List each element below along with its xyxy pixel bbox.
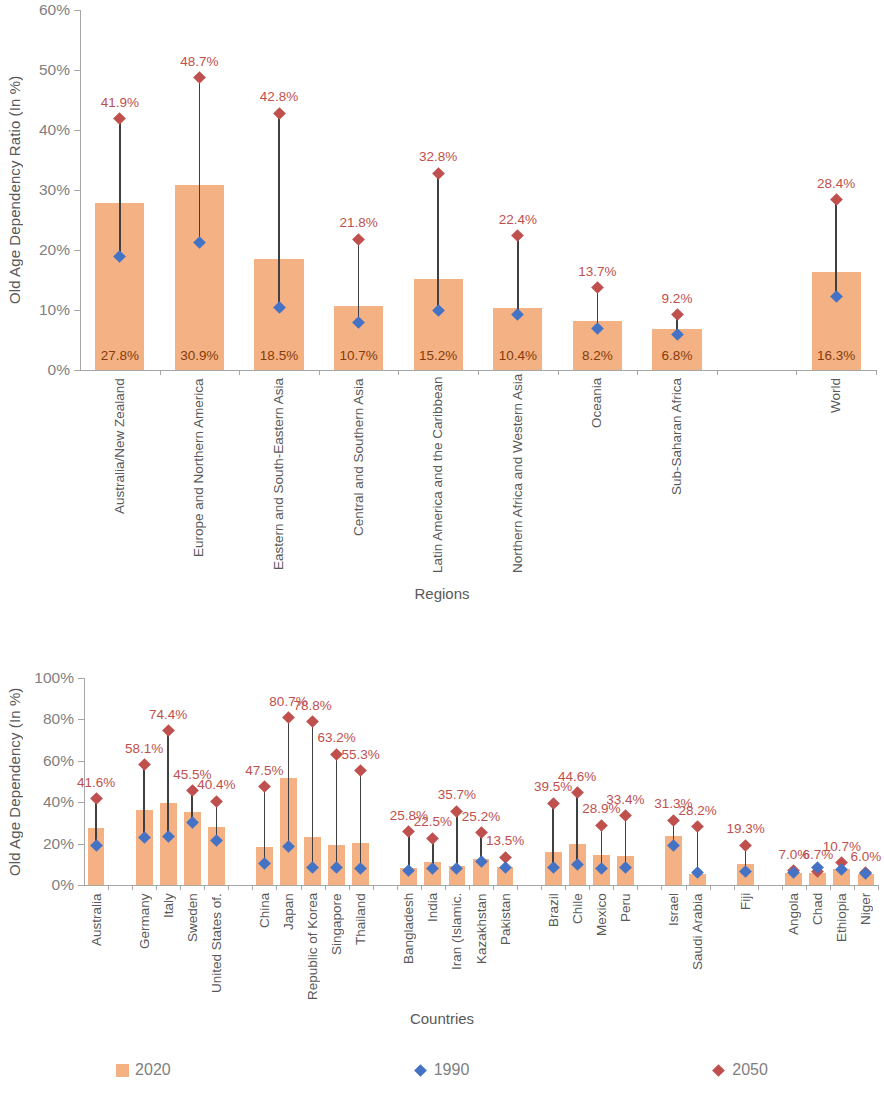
x-axis-category-label: Iran (Islamic. — [449, 893, 464, 1018]
x-axis-category-label: Sweden — [185, 893, 200, 1018]
x-axis-category-label: Saudi Arabia — [690, 893, 705, 1018]
y-axis-tick-label: 40% — [0, 793, 74, 811]
legend-label: 2050 — [732, 1061, 768, 1079]
x-axis-tick-mark — [878, 885, 879, 890]
bar-value-label: 6.8% — [662, 348, 693, 363]
x-axis-category-label: Thailand — [353, 893, 368, 1018]
x-axis-tick-mark — [589, 885, 590, 890]
x-axis-category-label: Australia — [89, 893, 104, 1018]
connector-line — [119, 119, 121, 256]
x-axis-category-label: Kazakhstan — [474, 893, 489, 1018]
x-axis-category-label: Europe and Northern America — [191, 378, 207, 573]
x-axis-tick-mark — [252, 885, 253, 890]
marker-2050-label: 22.4% — [499, 212, 537, 227]
legend-item-2050[interactable]: 2050 — [712, 1061, 768, 1079]
connector-line — [167, 731, 169, 836]
legend-item-1990[interactable]: 1990 — [414, 1061, 470, 1079]
x-axis-category-label: India — [425, 893, 440, 1018]
connector-line — [312, 722, 314, 868]
marker-2050-label: 48.7% — [180, 54, 218, 69]
connector-line — [288, 718, 290, 847]
x-axis-tick-mark — [421, 885, 422, 890]
marker-2050 — [306, 716, 319, 729]
marker-2050 — [547, 797, 560, 810]
x-axis-tick-mark — [493, 885, 494, 890]
y-axis-tick-label: 10% — [0, 301, 70, 319]
x-axis-category-label: United States of. — [209, 893, 224, 1018]
y-axis-tick-label: 60% — [0, 752, 74, 770]
marker-2050-label: 74.4% — [149, 707, 187, 722]
marker-2050 — [571, 786, 584, 799]
marker-2050 — [591, 281, 604, 294]
x-axis-tick-mark — [541, 885, 542, 890]
marker-2050-label: 6.0% — [851, 849, 882, 864]
legend-item-2020[interactable]: 2020 — [116, 1061, 171, 1079]
x-axis-tick-mark — [319, 370, 320, 375]
marker-2050 — [671, 308, 684, 321]
x-axis-tick-mark — [301, 885, 302, 890]
x-axis-tick-mark — [517, 885, 518, 890]
x-axis-tick-mark — [686, 885, 687, 890]
x-axis-tick-mark — [373, 885, 374, 890]
marker-2050 — [427, 832, 440, 845]
connector-line — [278, 113, 280, 307]
chart-regions: Old Age Dependency Ratio (In %)0%10%20%3… — [0, 0, 884, 610]
bar-value-label: 27.8% — [101, 348, 139, 363]
x-axis-category-label: Eastern and South-Eastern Asia — [271, 378, 287, 573]
marker-2050 — [273, 107, 286, 120]
marker-2050-label: 47.5% — [245, 763, 283, 778]
connector-line — [336, 754, 338, 867]
x-axis-category-label: Mexico — [594, 893, 609, 1018]
connector-line — [552, 803, 554, 867]
x-axis-tick-mark — [710, 885, 711, 890]
y-axis-tick-label: 40% — [0, 121, 70, 139]
marker-2050-label: 25.2% — [462, 809, 500, 824]
marker-2050-label: 28.2% — [678, 803, 716, 818]
bar-value-label: 10.4% — [499, 348, 537, 363]
x-axis-category-label: Fiji — [738, 893, 753, 1018]
x-axis-category-label: Oceania — [589, 378, 605, 573]
x-axis-category-label: Germany — [137, 893, 152, 1018]
x-axis-tick-mark — [276, 885, 277, 890]
chart-legend: 202019902050 — [0, 1055, 884, 1085]
x-axis-category-label: Peru — [618, 893, 633, 1018]
x-axis-tick-mark — [558, 370, 559, 375]
x-axis-tick-mark — [758, 885, 759, 890]
x-axis-line — [84, 885, 878, 886]
marker-2050-label: 32.8% — [419, 149, 457, 164]
bar-value-label: 8.2% — [582, 348, 613, 363]
x-axis-category-label: Bangladesh — [401, 893, 416, 1018]
bar-value-label: 18.5% — [260, 348, 298, 363]
marker-2050-label: 9.2% — [662, 291, 693, 306]
y-axis-tick-label: 80% — [0, 710, 74, 728]
legend-diamond-icon — [712, 1064, 725, 1077]
y-axis-line — [80, 10, 81, 370]
x-axis-category-label: Pakistan — [498, 893, 513, 1018]
x-axis-category-label: Chile — [570, 893, 585, 1018]
x-axis-category-label: Israel — [666, 893, 681, 1018]
marker-2050-label: 58.1% — [125, 741, 163, 756]
x-axis-category-label: Brazil — [546, 893, 561, 1018]
connector-line — [456, 811, 458, 868]
x-axis-tick-mark — [469, 885, 470, 890]
marker-2050 — [830, 193, 843, 206]
connector-line — [264, 787, 266, 864]
marker-2050 — [739, 839, 752, 852]
marker-2050 — [138, 758, 151, 771]
chart-countries: Old Age Dependency (In %)0%20%40%60%80%1… — [0, 640, 884, 1040]
legend-diamond-icon — [414, 1064, 427, 1077]
legend-label: 1990 — [434, 1061, 470, 1079]
y-axis-tick-label: 0% — [0, 361, 70, 379]
x-axis-title: Regions — [0, 585, 884, 602]
x-axis-tick-mark — [806, 885, 807, 890]
y-axis-tick-label: 20% — [0, 835, 74, 853]
x-axis-tick-mark — [565, 885, 566, 890]
marker-2050 — [162, 725, 175, 738]
x-axis-tick-mark — [132, 885, 133, 890]
marker-2050 — [619, 809, 632, 822]
x-axis-tick-mark — [160, 370, 161, 375]
x-axis-category-label: World — [828, 378, 844, 573]
bar-value-label: 16.3% — [817, 348, 855, 363]
x-axis-category-label: Chad — [810, 893, 825, 1018]
connector-line — [358, 239, 360, 322]
